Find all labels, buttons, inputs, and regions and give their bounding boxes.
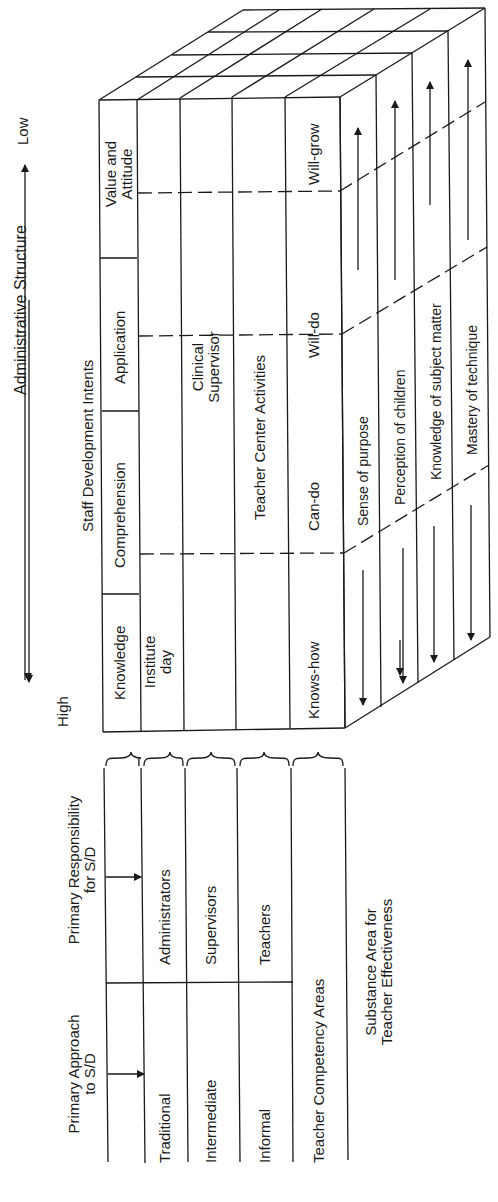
substance-line2: Teacher Effectiveness <box>379 882 395 1062</box>
clinical-line1: Clinical <box>190 327 206 407</box>
competency-perception-of-children: Perception of children <box>392 370 408 505</box>
axis-title: Administrative Structure <box>13 225 29 395</box>
responsibility-header: Primary Responsibility for S/D <box>66 770 98 970</box>
responsibility-teachers: Teachers <box>257 904 273 965</box>
intent-value-attitude: Value and Attitude <box>103 124 135 224</box>
approach-header-line1: Primary Approach <box>66 994 82 1154</box>
competency-knowledge-of-subject-matter: Knowledge of subject matter <box>428 303 444 480</box>
teacher-competency-areas-label: Teacher Competency Areas <box>311 979 327 1163</box>
responsibility-supervisors: Supervisors <box>203 886 219 965</box>
axis-low-label: Low <box>15 117 31 145</box>
value-line1: Value and <box>103 124 119 224</box>
cell-clinical-supervisor: Clinical Supervisor <box>190 327 222 407</box>
cell-teacher-center-activities: Teacher Center Activities <box>252 355 268 520</box>
cell-can-do: Can-do <box>306 482 322 531</box>
approach-header: Primary Approach to S/D <box>66 994 98 1154</box>
approach-informal: Informal <box>257 1109 273 1163</box>
intent-knowledge: Knowledge <box>112 626 128 700</box>
competency-mastery-of-technique: Mastery of technique <box>464 325 480 455</box>
cell-will-do: Will-do <box>306 312 322 358</box>
cell-knows-how: Knows-how <box>306 641 322 719</box>
value-line2: Attitude <box>119 124 135 224</box>
responsibility-header-line2: for S/D <box>82 770 98 970</box>
intents-title: Staff Development Intents <box>80 360 96 532</box>
intent-application: Application <box>112 311 128 384</box>
competency-sense-of-purpose: Sense of purpose <box>355 416 371 526</box>
substance-line1: Substance Area for <box>363 882 379 1062</box>
responsibility-header-line1: Primary Responsibility <box>66 770 82 970</box>
cell-will-grow: Will-grow <box>306 123 322 185</box>
approach-traditional: Traditional <box>157 1094 173 1163</box>
substance-area-label: Substance Area for Teacher Effectiveness <box>363 882 395 1062</box>
staff-development-diagram: Administrative Structure Low High Staff … <box>0 0 498 1202</box>
institute-line2: day <box>158 632 174 692</box>
approach-intermediate: Intermediate <box>203 1080 219 1163</box>
clinical-line2: Supervisor <box>206 327 222 407</box>
intent-comprehension: Comprehension <box>112 462 128 568</box>
cell-institute-day: Institute day <box>142 632 174 692</box>
approach-header-line2: to S/D <box>82 994 98 1154</box>
responsibility-administrators: Administrators <box>157 869 173 965</box>
axis-high-label: High <box>55 696 71 727</box>
institute-line1: Institute <box>142 632 158 692</box>
